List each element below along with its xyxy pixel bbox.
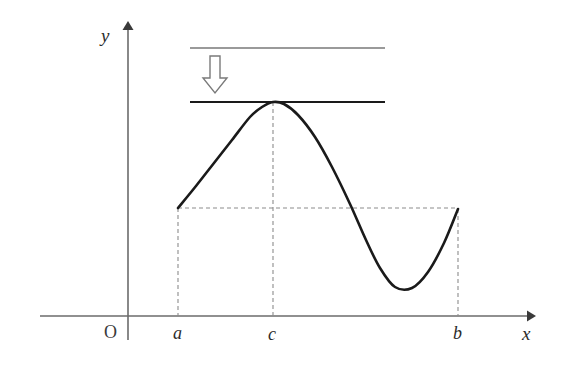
y-axis-label: y (101, 26, 109, 45)
function-graph-figure: y x O a c b (0, 0, 570, 389)
tick-label-c: c (268, 325, 276, 343)
function-curve (178, 102, 458, 290)
down-arrow-icon (203, 56, 227, 93)
tick-label-a: a (173, 324, 182, 342)
x-axis-label: x (522, 324, 530, 343)
x-axis-arrowhead-icon (527, 311, 536, 322)
graph-canvas (0, 0, 570, 389)
tick-label-b: b (453, 324, 462, 342)
y-axis-arrowhead-icon (123, 21, 134, 30)
y-axis (123, 21, 134, 340)
origin-label: O (104, 323, 117, 341)
x-axis (40, 311, 536, 322)
